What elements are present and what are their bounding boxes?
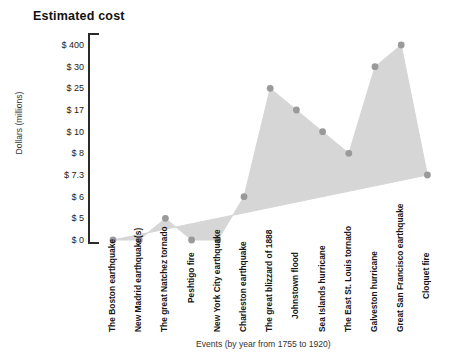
chart-container: Estimated cost Dollars (millions) $ 400$…: [0, 0, 452, 363]
x-tick-label: Cloquet fire: [422, 252, 432, 332]
x-tick-label: Peshtigo fire: [187, 252, 197, 332]
x-tick-label: Great San Francisco earthquake: [396, 252, 406, 332]
x-tick-label: The great Natchez tornado: [160, 252, 170, 332]
x-tick-label: The great blizzard of 1888: [265, 252, 275, 332]
x-tick-label: New Madrid earthquake(s): [134, 252, 144, 332]
x-tick-label: Sea Islands hurricane: [318, 252, 328, 332]
x-tick-label: The Boston earthquake: [108, 252, 118, 332]
x-tick-label: Johnstown flood: [291, 252, 301, 332]
x-tick-label: Charleston earthquake: [239, 252, 249, 332]
x-axis-label: Events (by year from 1755 to 1920): [196, 339, 331, 349]
x-tick-label: The East St. Louis tornado: [344, 252, 354, 332]
x-axis-tick-labels: The Boston earthquakeNew Madrid earthqua…: [0, 0, 452, 363]
x-tick-label: Galveston hurricane: [370, 252, 380, 332]
x-tick-label: New York City earthquake: [213, 252, 223, 332]
